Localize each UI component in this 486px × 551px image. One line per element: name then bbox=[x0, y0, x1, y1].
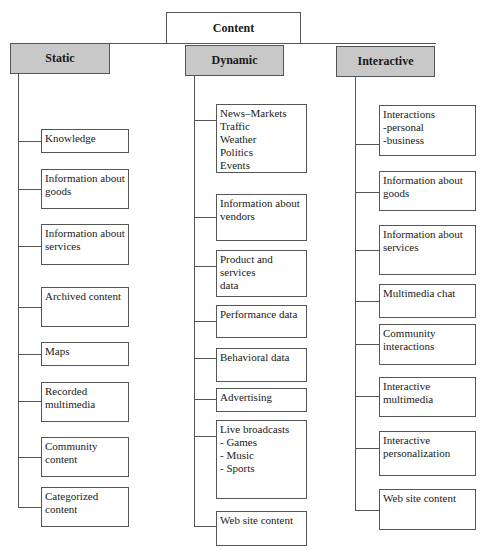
category-interactive: Interactive bbox=[336, 46, 435, 77]
dynamic-connector-line bbox=[194, 399, 216, 400]
static-item: Knowledge bbox=[41, 129, 129, 153]
interactive-connector-line bbox=[355, 396, 379, 397]
interactive-connector-line bbox=[355, 250, 379, 251]
static-connector-line bbox=[18, 401, 41, 402]
static-item: Archived content bbox=[41, 287, 129, 327]
dynamic-item: Information about vendors bbox=[216, 194, 307, 241]
static-connector-line bbox=[18, 354, 41, 355]
static-item: Recorded multimedia bbox=[41, 382, 129, 422]
static-connector-line bbox=[18, 507, 41, 508]
static-item: Maps bbox=[41, 342, 129, 366]
dynamic-connector-line bbox=[194, 321, 216, 322]
dynamic-connector-line bbox=[194, 526, 216, 527]
category-dynamic: Dynamic bbox=[185, 45, 284, 76]
interactive-connector-line bbox=[355, 301, 379, 302]
dynamic-trunk-line bbox=[194, 76, 195, 527]
interactive-connector-line bbox=[355, 448, 379, 449]
dynamic-item: Product and services data bbox=[216, 250, 307, 297]
static-item: Information about services bbox=[41, 224, 129, 265]
dynamic-connector-line bbox=[194, 436, 216, 437]
interactive-item: Information about goods bbox=[379, 171, 476, 211]
dynamic-connector-line bbox=[194, 266, 216, 267]
root-node-content: Content bbox=[166, 12, 301, 44]
interactive-trunk-line bbox=[355, 77, 356, 510]
static-connector-line bbox=[18, 457, 41, 458]
static-connector-line bbox=[18, 246, 41, 247]
interactive-connector-line bbox=[355, 510, 379, 511]
interactive-connector-line bbox=[355, 144, 379, 145]
dynamic-item: Behavioral data bbox=[216, 348, 307, 382]
dynamic-connector-line bbox=[194, 358, 216, 359]
interactive-item: Interactions -personal -business bbox=[379, 105, 476, 156]
dynamic-item: Web site content bbox=[216, 511, 307, 546]
static-connector-line bbox=[18, 307, 41, 308]
dynamic-item: Performance data bbox=[216, 305, 307, 338]
interactive-item: Web site content bbox=[379, 489, 476, 530]
static-item: Information about goods bbox=[41, 169, 129, 209]
category-static: Static bbox=[10, 43, 110, 74]
interactive-item: Interactive personalization bbox=[379, 431, 476, 476]
static-item: Community content bbox=[41, 437, 129, 477]
interactive-connector-line bbox=[355, 344, 379, 345]
interactive-item: Interactive multimedia bbox=[379, 377, 476, 417]
dynamic-item: Live broadcasts - Games - Music - Sports bbox=[216, 420, 307, 499]
interactive-item: Community interactions bbox=[379, 324, 476, 365]
dynamic-item: News–Markets Traffic Weather Politics Ev… bbox=[216, 104, 307, 173]
static-connector-line bbox=[18, 189, 41, 190]
dynamic-connector-line bbox=[194, 217, 216, 218]
static-trunk-line bbox=[18, 74, 19, 508]
dynamic-item: Advertising bbox=[216, 388, 307, 412]
static-connector-line bbox=[18, 141, 41, 142]
interactive-connector-line bbox=[355, 192, 379, 193]
interactive-item: Information about services bbox=[379, 225, 476, 275]
interactive-item: Multimedia chat bbox=[379, 284, 476, 318]
dynamic-connector-line bbox=[194, 120, 216, 121]
static-item: Categorized content bbox=[41, 487, 129, 527]
